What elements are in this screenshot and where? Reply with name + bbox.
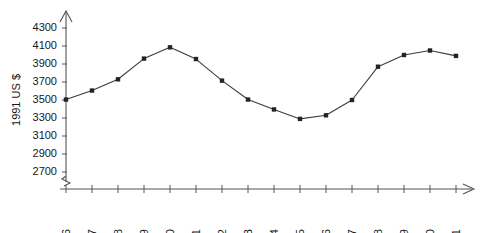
y-tick-label: 4100 (33, 39, 57, 51)
data-marker-group (64, 45, 458, 121)
data-point-marker (142, 56, 146, 60)
data-point-marker (116, 77, 120, 81)
y-tick-label: 3300 (33, 111, 57, 123)
x-tick-label: 1977 (86, 229, 98, 233)
x-tick-group: 1976197719781979198019811982198319841985… (60, 185, 462, 233)
data-point-marker (168, 45, 172, 49)
x-tick-label: 1987 (346, 229, 358, 233)
data-point-marker (246, 97, 250, 101)
y-tick-label: 3500 (33, 93, 57, 105)
data-point-marker (298, 117, 302, 121)
data-point-marker (454, 54, 458, 58)
data-series-group (66, 47, 456, 119)
data-point-marker (64, 97, 68, 101)
data-point-marker (272, 107, 276, 111)
line-chart-container: 1991 US $ 430041003900370035003300310029… (0, 0, 483, 233)
x-axis (60, 184, 474, 194)
x-tick-label: 1981 (190, 229, 202, 233)
x-tick-label: 1989 (398, 229, 410, 233)
data-point-marker (428, 48, 432, 52)
y-axis (60, 11, 72, 182)
data-point-marker (90, 88, 94, 92)
x-tick-label: 1983 (242, 229, 254, 233)
chart-canvas: 1991 US $ 430041003900370035003300310029… (0, 0, 483, 233)
x-tick-label: 1988 (372, 229, 384, 233)
x-tick-label: 1986 (320, 229, 332, 233)
data-point-marker (220, 78, 224, 82)
x-tick-label: 1984 (268, 229, 280, 233)
data-point-marker (402, 53, 406, 57)
y-tick-label: 4300 (33, 21, 57, 33)
data-point-marker (194, 57, 198, 61)
x-tick-label: 1991 (450, 229, 462, 233)
x-tick-label: 1985 (294, 229, 306, 233)
data-point-marker (324, 113, 328, 117)
y-tick-label: 2700 (33, 165, 57, 177)
y-tick-label: 2900 (33, 147, 57, 159)
x-tick-label: 1979 (138, 229, 150, 233)
data-point-marker (376, 65, 380, 69)
x-tick-label: 1990 (424, 229, 436, 233)
x-tick-label: 1978 (112, 229, 124, 233)
x-tick-label: 1980 (164, 229, 176, 233)
series-line (66, 47, 456, 119)
y-tick-label: 3100 (33, 129, 57, 141)
y-tick-group: 430041003900370035003300310029002700 (33, 21, 67, 177)
x-tick-label: 1982 (216, 229, 228, 233)
y-tick-label: 3900 (33, 57, 57, 69)
y-tick-label: 3700 (33, 75, 57, 87)
y-axis-title: 1991 US $ (10, 74, 22, 126)
data-point-marker (350, 98, 354, 102)
x-tick-label: 1976 (60, 229, 72, 233)
